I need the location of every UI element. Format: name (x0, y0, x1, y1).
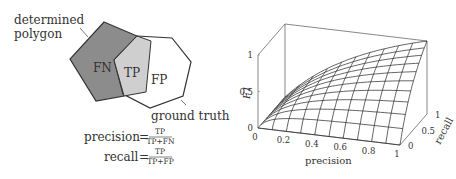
fn-label: FN (93, 61, 112, 75)
x-tick-label: 0.4 (305, 139, 319, 149)
recall-lhs: recall (104, 150, 139, 164)
x-tick-label: 0.6 (333, 142, 347, 152)
z-axis-label: F1 (241, 86, 252, 100)
axis-box-edge (285, 24, 427, 41)
x-tick-label: 0.2 (277, 135, 291, 145)
figure-canvas: determined polygon FN TP FP ground truth… (0, 0, 456, 179)
recall-numerator: TP (155, 147, 165, 156)
mesh-line-recall (266, 100, 408, 119)
x-axis-label: precision (305, 155, 352, 166)
fp-label: FP (151, 73, 167, 87)
axis-box-edge (258, 24, 285, 55)
ground-truth-label: ground truth (151, 109, 230, 123)
z-axis-label-text: F1 (241, 86, 252, 100)
mesh-line-recall (263, 109, 405, 122)
mesh-line-recall (285, 41, 427, 97)
recall-denominator: TP+FP (147, 157, 174, 166)
determined-label-line1: determined (14, 13, 84, 27)
z-tick-label: 0 (248, 123, 253, 133)
precision-numerator: TP (155, 127, 165, 136)
y-tick-label: 1 (435, 110, 440, 120)
tp-label: TP (124, 66, 140, 80)
f1-surface-mesh (258, 41, 427, 145)
precision-lhs: precision (84, 130, 140, 144)
z-tick-label: 1 (248, 50, 253, 60)
determined-leader-line (80, 28, 88, 37)
determined-label-line2: polygon (14, 27, 62, 41)
y-axis-label: recall (432, 115, 455, 145)
mesh-line-precision (372, 46, 399, 142)
x-tick-label: 0 (252, 132, 257, 142)
y-tick-label: 0 (408, 141, 413, 151)
f1-surface-plot: 00.20.40.60.8100.5100.51 precision recal… (239, 24, 455, 166)
x-tick-label: 1 (394, 149, 399, 159)
x-tick-label: 0.8 (362, 146, 376, 156)
mesh-line-precision (286, 76, 313, 131)
mesh-line-recall (269, 90, 411, 115)
precision-denominator: TP+FN (146, 137, 175, 146)
ground-truth-leader-line (181, 100, 186, 105)
polygon-diagram: determined polygon FN TP FP ground truth… (14, 13, 230, 166)
y-tick-label: 0.5 (422, 126, 436, 136)
